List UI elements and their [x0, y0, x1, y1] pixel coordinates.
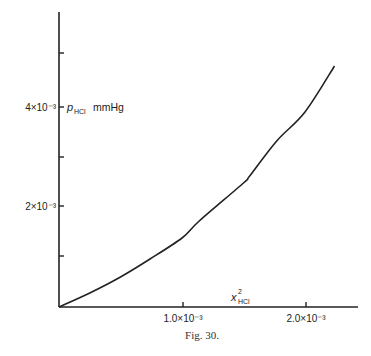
y-tick-label-4e-3: 4×10⁻³ — [25, 102, 57, 113]
svg-text:mmHg: mmHg — [93, 101, 124, 113]
svg-text:2: 2 — [238, 288, 242, 295]
svg-text:HCl: HCl — [238, 298, 250, 305]
y-tick-label-2e-3: 2×10⁻³ — [25, 201, 57, 212]
x-axis-label: x 2 HCl — [230, 288, 250, 305]
svg-text:p: p — [66, 101, 73, 113]
x-tick-label-1e-3: 1.0×10⁻³ — [163, 313, 203, 324]
x-tick-label-2e-3: 2.0×10⁻³ — [286, 313, 326, 324]
chart: 4×10⁻³ 2×10⁻³ 1.0×10⁻³ 2.0×10⁻³ p HCl mm… — [0, 0, 371, 356]
y-axis-label: p HCl mmHg — [66, 101, 124, 115]
svg-text:x: x — [230, 291, 237, 303]
figure-caption: Fig. 30. — [185, 329, 219, 341]
svg-text:HCl: HCl — [74, 108, 86, 115]
